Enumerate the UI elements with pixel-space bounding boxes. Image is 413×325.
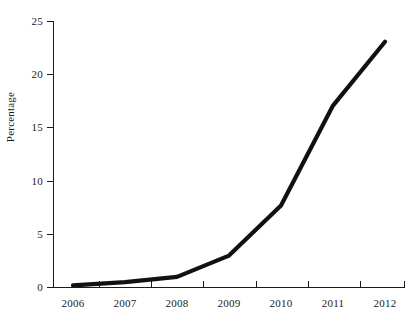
y-tick-label-0: 0 [21, 281, 43, 293]
x-tick-label-2008: 2008 [153, 297, 201, 309]
y-tick-label-5: 5 [21, 228, 43, 240]
x-tick-label-2009: 2009 [205, 297, 253, 309]
y-tick-label-20: 20 [21, 68, 43, 80]
y-axis-title: Percentage [4, 72, 16, 162]
x-tick-label-2010: 2010 [257, 297, 305, 309]
x-tick-label-2007: 2007 [101, 297, 149, 309]
data-series-line [73, 42, 385, 286]
y-tick-label-10: 10 [21, 175, 43, 187]
y-tick-marks [47, 22, 54, 288]
x-tick-label-2011: 2011 [309, 297, 357, 309]
x-tick-label-2012: 2012 [361, 297, 409, 309]
line-chart-figure: 25 20 15 10 5 0 2006 2007 2008 2009 2010… [0, 0, 413, 325]
x-tick-label-2006: 2006 [49, 297, 97, 309]
chart-canvas [0, 0, 413, 325]
y-tick-label-15: 15 [21, 121, 43, 133]
y-tick-label-25: 25 [21, 15, 43, 27]
